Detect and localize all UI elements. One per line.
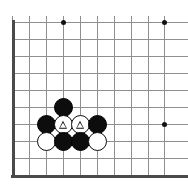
grid-line-vertical-4: [80, 16, 81, 175]
star-point-upper: [61, 20, 66, 25]
triangle-marker-inner-icon: [60, 123, 66, 128]
grid-line-vertical-8: [148, 16, 149, 175]
grid-line-vertical-9: [164, 16, 165, 175]
grid-line-vertical-1: [29, 16, 30, 175]
grid-line-horizontal-8: [12, 158, 188, 159]
go-board-diagram: Go board corner diagram: [0, 0, 188, 193]
grid-line-horizontal-2: [12, 56, 188, 57]
goban[interactable]: [0, 0, 188, 193]
grid-line-horizontal-1: [12, 39, 188, 40]
grid-line-vertical-7: [131, 16, 132, 175]
black-stone-right[interactable]: [88, 115, 107, 134]
star-point-upper-right: [162, 20, 167, 25]
star-point-right: [162, 122, 167, 127]
black-stone-bottom-center-right[interactable]: [71, 132, 90, 151]
black-stone-left[interactable]: [37, 115, 56, 134]
grid-line-vertical-6: [114, 16, 115, 175]
black-stone-top[interactable]: [54, 98, 73, 117]
grid-line-horizontal-4: [12, 90, 188, 91]
white-stone-marked-left[interactable]: [54, 115, 73, 134]
white-stone-marked-right[interactable]: [71, 115, 90, 134]
grid-line-horizontal-5: [12, 107, 188, 108]
bottom-edge: [11, 175, 188, 178]
triangle-marker-inner-icon: [77, 123, 83, 128]
grid-line-vertical-5: [97, 16, 98, 175]
white-stone-bottom-right[interactable]: [88, 132, 107, 151]
white-stone-bottom-left[interactable]: [37, 132, 56, 151]
grid-line-horizontal-3: [12, 73, 188, 74]
black-stone-bottom-center-left[interactable]: [54, 132, 73, 151]
left-edge: [12, 20, 15, 177]
grid-line-vertical-2: [46, 16, 47, 175]
grid-line-vertical-3: [63, 16, 64, 175]
